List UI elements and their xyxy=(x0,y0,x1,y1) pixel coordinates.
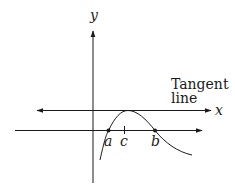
x-axis-label: x xyxy=(215,102,223,118)
y-axis-label: y xyxy=(89,7,99,23)
function-curve xyxy=(100,111,192,161)
label-c: c xyxy=(120,133,128,149)
point-a xyxy=(107,129,111,133)
label-a: a xyxy=(104,133,112,149)
point-b xyxy=(153,129,157,133)
tangent-diagram: y x Tangent line a c b xyxy=(0,0,235,189)
label-b: b xyxy=(151,133,160,149)
tangent-label-line2: line xyxy=(171,90,197,106)
diagram-canvas: y x Tangent line a c b xyxy=(0,0,235,189)
